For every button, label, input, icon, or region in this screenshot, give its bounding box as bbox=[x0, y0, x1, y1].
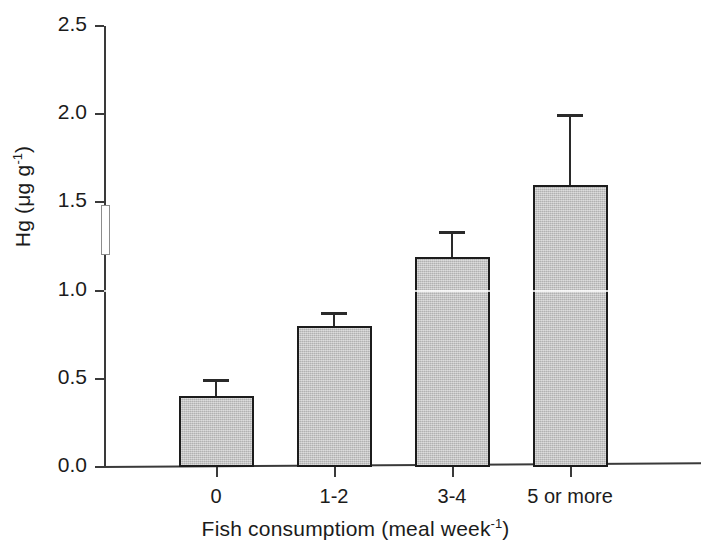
error-bar-cap bbox=[439, 231, 465, 234]
error-bar-cap bbox=[203, 379, 229, 382]
x-axis-tick-label: 0 bbox=[210, 485, 221, 508]
axis-scan-artifact bbox=[101, 205, 110, 255]
bar-chart-figure: Hg (μg g-1) 0.00.51.01.52.02.5 01-23-45 … bbox=[0, 0, 711, 551]
y-axis-tick: 0.5 bbox=[95, 378, 104, 380]
y-axis-tick-label: 0.0 bbox=[58, 453, 87, 477]
y-axis-title-tail: ) bbox=[11, 146, 34, 153]
x-axis-title: Fish consumptiom (meal week-1) bbox=[0, 516, 711, 541]
y-axis-tick: 2.5 bbox=[95, 25, 104, 27]
error-bar-stem bbox=[451, 231, 453, 257]
y-axis-tick-label: 1.5 bbox=[58, 188, 87, 212]
x-axis-title-tail: ) bbox=[502, 517, 509, 540]
error-bar-stem bbox=[569, 114, 571, 185]
x-axis-tick-label: 3-4 bbox=[438, 485, 467, 508]
y-axis-tick: 2.0 bbox=[95, 113, 104, 115]
y-axis-tick-label: 0.5 bbox=[58, 365, 87, 389]
y-axis-tick-label: 2.0 bbox=[58, 100, 87, 124]
y-axis-title-superscript: -1 bbox=[10, 153, 25, 165]
bar bbox=[297, 326, 372, 467]
error-bar-cap bbox=[557, 114, 583, 117]
x-axis-tick bbox=[334, 467, 336, 477]
bar bbox=[533, 185, 608, 467]
x-axis-tick bbox=[216, 467, 218, 477]
x-axis-tick bbox=[570, 467, 572, 477]
error-bar-cap bbox=[321, 312, 347, 315]
y-axis-title-text: Hg (μg g bbox=[11, 165, 34, 248]
x-axis-tick bbox=[452, 467, 454, 477]
plot-area: 0.00.51.01.52.02.5 01-23-45 or more bbox=[104, 26, 701, 467]
x-axis-title-superscript: -1 bbox=[491, 516, 503, 531]
y-axis-tick: 1.0 bbox=[95, 290, 104, 292]
y-axis-tick-label: 2.5 bbox=[58, 12, 87, 36]
x-axis-title-text: Fish consumptiom (meal week bbox=[202, 517, 491, 540]
x-axis-tick-label: 1-2 bbox=[320, 485, 349, 508]
y-axis-tick-label: 1.0 bbox=[58, 277, 87, 301]
y-axis-tick: 0.0 bbox=[95, 466, 104, 468]
y-axis-title: Hg (μg g-1) bbox=[10, 117, 35, 277]
bar bbox=[179, 396, 254, 467]
scan-line-artifact bbox=[104, 290, 701, 292]
x-axis-tick-label: 5 or more bbox=[527, 485, 613, 508]
bar bbox=[415, 257, 490, 467]
y-axis-tick: 1.5 bbox=[95, 201, 104, 203]
